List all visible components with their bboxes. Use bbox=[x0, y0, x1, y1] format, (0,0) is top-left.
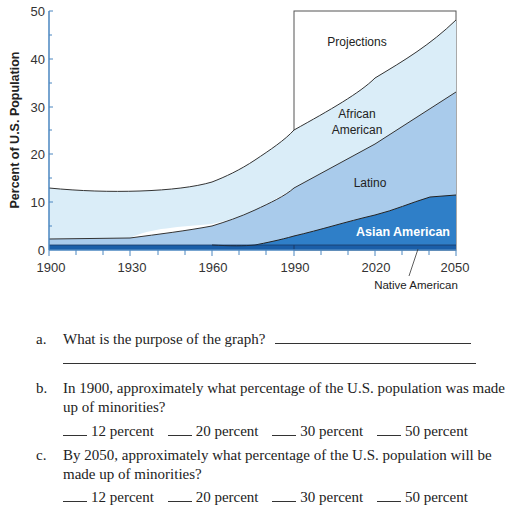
x-tick-label: 2050 bbox=[441, 260, 470, 275]
answer-blank-a[interactable] bbox=[275, 342, 471, 344]
label-projections: Projections bbox=[327, 35, 386, 49]
x-tick-label: 1960 bbox=[199, 260, 228, 275]
label-african-american: American bbox=[332, 123, 383, 137]
native-american-pointer bbox=[409, 249, 418, 276]
question-a-second-line bbox=[0, 362, 476, 363]
question-c-text-line1: By 2050, approximately what percentage o… bbox=[63, 447, 476, 464]
y-axis-label: Percent of U.S. Population bbox=[8, 52, 22, 209]
choice-30-percent[interactable]: 30 percent bbox=[272, 489, 363, 506]
label-latino: Latino bbox=[354, 176, 387, 190]
label-african-american: African bbox=[338, 107, 375, 121]
answer-blank[interactable] bbox=[168, 435, 192, 436]
choice-20-percent[interactable]: 20 percent bbox=[168, 489, 259, 506]
x-tick-label: 1930 bbox=[118, 260, 147, 275]
choice-12-percent[interactable]: 12 percent bbox=[63, 423, 154, 440]
y-tick-label: 50 bbox=[31, 4, 45, 19]
x-tick-label: 2020 bbox=[362, 260, 391, 275]
question-letter: c. bbox=[36, 447, 46, 464]
question-b-text-line1: In 1900, approximately what percentage o… bbox=[63, 380, 476, 397]
y-tick-label: 20 bbox=[31, 147, 45, 162]
choice-30-percent[interactable]: 30 percent bbox=[272, 423, 363, 440]
answer-blank[interactable] bbox=[168, 501, 192, 502]
question-c-text-line2: made up of minorities? bbox=[63, 466, 476, 483]
question-letter: b. bbox=[36, 380, 47, 397]
question-a-text: What is the purpose of the graph? bbox=[63, 331, 265, 347]
answer-blank[interactable] bbox=[63, 435, 87, 436]
label-native-american: Native American bbox=[374, 279, 458, 290]
answer-blank-a-line2[interactable] bbox=[63, 362, 476, 364]
x-tick-label: 1990 bbox=[281, 260, 310, 275]
label-asian-american: Asian American bbox=[356, 225, 450, 239]
y-tick-label: 40 bbox=[31, 52, 45, 67]
answer-blank[interactable] bbox=[377, 435, 401, 436]
y-tick-label: 30 bbox=[31, 100, 45, 115]
minority-population-chart: 50 40 30 20 10 0 1900 1930 1960 1990 202… bbox=[0, 0, 476, 290]
choice-50-percent[interactable]: 50 percent bbox=[377, 489, 468, 506]
choice-12-percent[interactable]: 12 percent bbox=[63, 489, 154, 506]
answer-blank[interactable] bbox=[377, 501, 401, 502]
answer-blank[interactable] bbox=[272, 435, 296, 436]
y-tick-label: 0 bbox=[38, 243, 45, 258]
answer-blank[interactable] bbox=[272, 501, 296, 502]
y-tick-label: 10 bbox=[31, 195, 45, 210]
question-letter: a. bbox=[36, 331, 46, 348]
question-b-text-line2: up of minorities? bbox=[63, 399, 476, 416]
choice-50-percent[interactable]: 50 percent bbox=[377, 423, 468, 440]
x-tick-label: 1900 bbox=[37, 260, 66, 275]
answer-blank[interactable] bbox=[63, 501, 87, 502]
choice-20-percent[interactable]: 20 percent bbox=[168, 423, 259, 440]
